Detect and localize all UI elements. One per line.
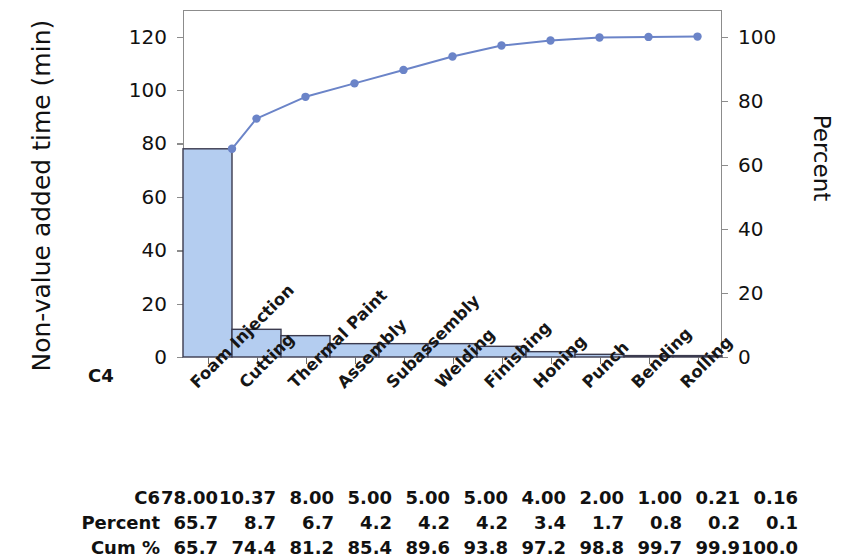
table-cell: 98.8 <box>566 536 624 558</box>
table-cell: 6.7 <box>276 511 334 536</box>
table-cell: 0.21 <box>682 486 740 511</box>
y-tick-label: 40 <box>121 240 167 260</box>
cumulative-marker <box>546 36 554 44</box>
table-cell: 3.4 <box>508 511 566 536</box>
table-cell: 89.6 <box>392 536 450 558</box>
table-cell: 85.4 <box>334 536 392 558</box>
secondary-y-tick-label: 80 <box>738 91 782 111</box>
table-row-label: Cum % <box>0 536 160 558</box>
table-row-label: Percent <box>0 511 160 536</box>
y-tick-label: 120 <box>121 27 167 47</box>
cumulative-marker <box>497 41 505 49</box>
y-tick-label: 80 <box>121 133 167 153</box>
x-axis-group-label: C4 <box>88 365 114 386</box>
cumulative-marker <box>448 52 456 60</box>
secondary-y-tick-label: 0 <box>738 347 782 367</box>
cumulative-line <box>232 37 698 149</box>
secondary-y-tick-label: 100 <box>738 27 782 47</box>
table-cell: 2.00 <box>566 486 624 511</box>
pareto-chart: Non-value added time (min) Percent 12010… <box>0 0 843 558</box>
bar <box>183 149 232 357</box>
cumulative-marker <box>350 79 358 87</box>
table-row-label: C6 <box>0 486 160 511</box>
table-cell: 81.2 <box>276 536 334 558</box>
y-tick-mark <box>177 357 183 358</box>
table-cell: 5.00 <box>334 486 392 511</box>
secondary-y-tick-mark <box>722 37 728 38</box>
table-cell: 0.16 <box>740 486 798 511</box>
cumulative-marker <box>228 145 236 153</box>
cumulative-line-series <box>228 32 702 153</box>
table-row: Percent65.78.76.74.24.24.23.41.70.80.20.… <box>0 511 798 536</box>
secondary-y-tick-label: 60 <box>738 155 782 175</box>
secondary-y-axis-title: Percent <box>809 78 835 238</box>
table-cell: 97.2 <box>508 536 566 558</box>
cumulative-marker <box>252 114 260 122</box>
table-cell: 78.00 <box>160 486 218 511</box>
table-cell: 0.1 <box>740 511 798 536</box>
secondary-y-tick-label: 40 <box>738 219 782 239</box>
y-tick-label: 0 <box>121 347 167 367</box>
y-axis-title: Non-value added time (min) <box>27 22 56 372</box>
table-cell: 4.00 <box>508 486 566 511</box>
cumulative-marker <box>644 33 652 41</box>
data-table: C678.0010.378.005.005.005.004.002.001.00… <box>0 486 798 558</box>
table-cell: 100.0 <box>740 536 798 558</box>
table-cell: 5.00 <box>392 486 450 511</box>
secondary-y-tick-mark <box>722 165 728 166</box>
y-tick-label: 60 <box>121 187 167 207</box>
table-cell: 93.8 <box>450 536 508 558</box>
cumulative-marker <box>301 93 309 101</box>
table-cell: 4.2 <box>334 511 392 536</box>
table-cell: 8.7 <box>218 511 276 536</box>
cumulative-marker <box>595 33 603 41</box>
y-tick-label: 20 <box>121 294 167 314</box>
table-cell: 8.00 <box>276 486 334 511</box>
pareto-data-table: C678.0010.378.005.005.005.004.002.001.00… <box>0 486 843 558</box>
table-row: C678.0010.378.005.005.005.004.002.001.00… <box>0 486 798 511</box>
table-cell: 74.4 <box>218 536 276 558</box>
secondary-y-tick-mark <box>722 229 728 230</box>
table-cell: 99.9 <box>682 536 740 558</box>
cumulative-marker <box>399 66 407 74</box>
table-cell: 4.2 <box>450 511 508 536</box>
table-cell: 0.2 <box>682 511 740 536</box>
secondary-y-tick-label: 20 <box>738 283 782 303</box>
cumulative-marker <box>693 32 701 40</box>
secondary-y-tick-mark <box>722 101 728 102</box>
table-cell: 99.7 <box>624 536 682 558</box>
table-cell: 0.8 <box>624 511 682 536</box>
table-cell: 4.2 <box>392 511 450 536</box>
y-tick-label: 100 <box>121 80 167 100</box>
table-row: Cum %65.774.481.285.489.693.897.298.899.… <box>0 536 798 558</box>
table-cell: 5.00 <box>450 486 508 511</box>
table-cell: 1.7 <box>566 511 624 536</box>
table-cell: 1.00 <box>624 486 682 511</box>
table-cell: 10.37 <box>218 486 276 511</box>
table-cell: 65.7 <box>160 511 218 536</box>
table-cell: 65.7 <box>160 536 218 558</box>
secondary-y-tick-mark <box>722 293 728 294</box>
